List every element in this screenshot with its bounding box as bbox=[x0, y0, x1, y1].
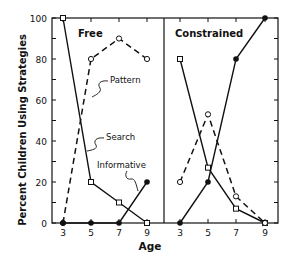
strategy-chart: 020406080100 35793579 Percent Children U… bbox=[0, 0, 293, 262]
square-marker bbox=[206, 165, 211, 170]
annotation-informative-pointer bbox=[126, 171, 138, 191]
open-circle-marker bbox=[116, 36, 121, 41]
x-tick-label: 5 bbox=[205, 228, 211, 238]
filled-circle-marker bbox=[144, 179, 150, 185]
panel-title-constrained: Constrained bbox=[175, 28, 243, 39]
open-circle-marker bbox=[177, 179, 182, 184]
square-marker bbox=[89, 180, 94, 185]
annotation-informative: Informative bbox=[97, 160, 146, 170]
series-line-pattern bbox=[180, 114, 265, 223]
square-marker bbox=[178, 57, 183, 62]
x-tick-label: 9 bbox=[262, 228, 268, 238]
y-tick-label: 100 bbox=[30, 14, 47, 24]
x-tick-label: 3 bbox=[177, 228, 183, 238]
y-tick-labels: 020406080100 bbox=[30, 14, 47, 229]
square-marker bbox=[234, 206, 239, 211]
filled-circle-marker bbox=[262, 15, 268, 21]
filled-circle-marker bbox=[60, 220, 66, 226]
filled-circle-marker bbox=[205, 179, 211, 185]
filled-circle-marker bbox=[177, 220, 183, 226]
series-line-pattern bbox=[63, 39, 147, 224]
y-tick-label: 40 bbox=[36, 137, 48, 147]
filled-circle-marker bbox=[116, 220, 122, 226]
annotation-search: Search bbox=[106, 132, 135, 142]
y-tick-label: 80 bbox=[36, 55, 48, 65]
open-circle-marker bbox=[205, 112, 210, 117]
square-marker bbox=[61, 16, 66, 21]
y-tick-label: 60 bbox=[36, 96, 48, 106]
series-line-informative bbox=[180, 18, 265, 223]
annotation-pattern: Pattern bbox=[110, 75, 141, 85]
x-tick-label: 3 bbox=[60, 228, 66, 238]
square-marker bbox=[117, 200, 122, 205]
x-tick-label: 7 bbox=[116, 228, 122, 238]
filled-circle-marker bbox=[233, 56, 239, 62]
filled-circle-marker bbox=[88, 220, 94, 226]
y-axis-label: Percent Children Using Strategies bbox=[17, 34, 28, 226]
y-tick-label: 20 bbox=[36, 178, 48, 188]
open-circle-marker bbox=[262, 220, 267, 225]
square-marker bbox=[145, 221, 150, 226]
x-tick-label: 9 bbox=[144, 228, 150, 238]
y-tick-label: 0 bbox=[41, 219, 47, 229]
x-tick-label: 5 bbox=[88, 228, 94, 238]
panel-title-free: Free bbox=[78, 28, 103, 39]
x-tick-label: 7 bbox=[233, 228, 239, 238]
series-line-informative bbox=[63, 182, 147, 223]
open-circle-marker bbox=[233, 194, 238, 199]
annotation-pattern-pointer bbox=[92, 81, 108, 97]
open-circle-marker bbox=[144, 56, 149, 61]
x-tick-labels: 35793579 bbox=[60, 228, 268, 238]
annotation-search-pointer bbox=[87, 138, 104, 151]
open-circle-marker bbox=[88, 56, 93, 61]
series-line-search bbox=[180, 59, 265, 223]
x-axis-label: Age bbox=[139, 240, 162, 252]
